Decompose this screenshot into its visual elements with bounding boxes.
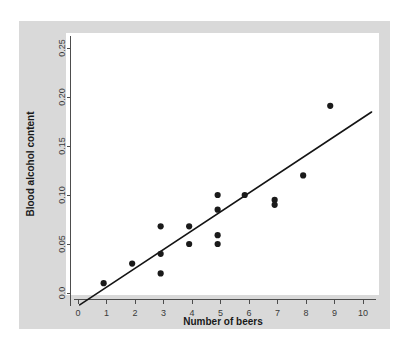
data-point <box>186 223 192 229</box>
data-point <box>215 241 221 247</box>
y-axis: 0.00.050.100.150.200.25 <box>57 36 71 306</box>
regression-line-segment <box>80 112 372 305</box>
figure-container: 0.00.050.100.150.200.25 012345678910 Num… <box>0 0 409 350</box>
y-tick-label: 0.25 <box>57 39 67 57</box>
x-tick-label: 10 <box>358 308 368 318</box>
data-points <box>101 103 334 287</box>
scatter-chart: 0.00.050.100.150.200.25 012345678910 Num… <box>0 0 409 350</box>
y-tick-label: 0.05 <box>57 235 67 253</box>
data-point <box>186 241 192 247</box>
y-axis-title: Blood alcohol content <box>25 111 36 217</box>
data-point <box>158 270 164 276</box>
x-tick-label: 2 <box>132 308 137 318</box>
x-tick-label: 0 <box>75 308 80 318</box>
y-tick-label: 0.10 <box>57 186 67 204</box>
x-tick-label: 8 <box>303 308 308 318</box>
data-point <box>242 192 248 198</box>
y-tick-label: 0.20 <box>57 88 67 106</box>
data-point <box>158 223 164 229</box>
data-point <box>101 280 107 286</box>
data-point <box>272 202 278 208</box>
x-tick-label: 9 <box>332 308 337 318</box>
data-point <box>327 103 333 109</box>
regression-line <box>80 112 372 305</box>
x-tick-label: 3 <box>161 308 166 318</box>
data-point <box>215 192 221 198</box>
data-point <box>215 207 221 213</box>
x-tick-label: 7 <box>275 308 280 318</box>
data-point <box>300 172 306 178</box>
data-point <box>215 232 221 238</box>
x-axis: 012345678910 <box>74 300 376 318</box>
y-tick-label: 0.15 <box>57 137 67 155</box>
data-point <box>158 251 164 257</box>
x-tick-label: 1 <box>104 308 109 318</box>
y-tick-label: 0.0 <box>57 287 67 300</box>
x-axis-title: Number of beers <box>183 316 263 327</box>
data-point <box>129 261 135 267</box>
